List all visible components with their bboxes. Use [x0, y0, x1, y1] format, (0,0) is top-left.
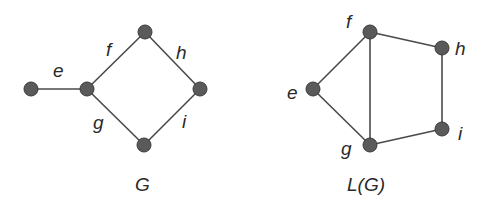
lg-edge-f-h — [370, 32, 442, 48]
graph-lg: f h e i g L(G) — [287, 11, 466, 195]
lg-node-h — [435, 41, 449, 55]
lg-label-i: i — [458, 123, 463, 144]
lg-node-g — [363, 138, 377, 152]
lg-edge-e-g — [313, 89, 370, 145]
lg-node-e — [306, 82, 320, 96]
caption-g: G — [135, 174, 150, 195]
edge-label-f: f — [106, 39, 113, 60]
node-1 — [24, 82, 38, 96]
edge-f — [87, 32, 145, 89]
lg-edge-g-i — [370, 129, 442, 145]
edge-label-g: g — [93, 112, 104, 133]
node-4 — [193, 82, 207, 96]
lg-label-g: g — [341, 138, 352, 159]
node-5 — [137, 138, 151, 152]
edge-h — [145, 32, 200, 89]
lg-label-e: e — [287, 82, 298, 103]
line-graph-figure: e f h g i G f h e i g L(G) — [0, 0, 488, 211]
edge-label-i: i — [182, 111, 187, 132]
node-3 — [138, 25, 152, 39]
edge-label-h: h — [176, 42, 187, 63]
lg-node-f — [363, 25, 377, 39]
edge-i — [144, 89, 200, 145]
lg-label-f: f — [346, 11, 353, 32]
caption-lg: L(G) — [347, 174, 385, 195]
lg-label-h: h — [455, 38, 466, 59]
lg-node-i — [435, 122, 449, 136]
node-2 — [80, 82, 94, 96]
lg-edge-e-f — [313, 32, 370, 89]
graph-g: e f h g i G — [24, 25, 207, 195]
edge-label-e: e — [53, 60, 64, 81]
